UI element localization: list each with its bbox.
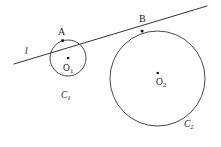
geometry-figure: l A B O1 O2 C1 C2 bbox=[0, 0, 221, 147]
center-label-o1: O1 bbox=[63, 64, 73, 74]
point-label-b: B bbox=[139, 14, 146, 24]
center-label-o2-subscript: 2 bbox=[163, 81, 166, 88]
curve-label-c2-subscript: 2 bbox=[190, 123, 193, 130]
point-label-a: A bbox=[58, 27, 65, 37]
center-label-o1-subscript: 1 bbox=[70, 67, 73, 74]
curve-label-c1: C1 bbox=[61, 91, 71, 101]
curve-label-c1-subscript: 1 bbox=[67, 94, 70, 101]
point-o2-dot bbox=[157, 72, 159, 74]
point-b-dot bbox=[141, 30, 144, 33]
tangent-line-l bbox=[14, 6, 207, 64]
center-label-o2: O2 bbox=[156, 78, 166, 88]
point-a-dot bbox=[61, 39, 64, 42]
center-label-o1-letter: O bbox=[63, 63, 70, 73]
center-label-o2-letter: O bbox=[156, 77, 163, 87]
line-label-l: l bbox=[25, 47, 28, 57]
point-o1-dot bbox=[67, 57, 69, 59]
curve-label-c2: C2 bbox=[184, 120, 194, 130]
